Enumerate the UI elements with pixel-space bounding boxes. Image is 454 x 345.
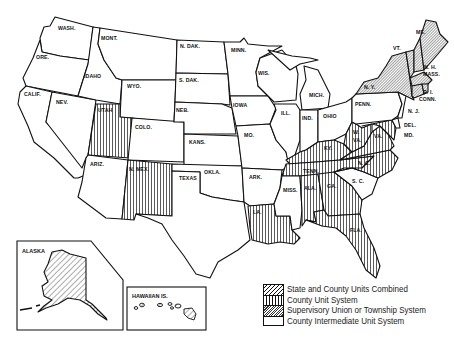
label-vt: VT.	[393, 45, 401, 51]
label-me: ME.	[416, 29, 426, 35]
legend-label: County Intermediate Unit System	[287, 316, 404, 326]
label-iowa: IOWA	[233, 102, 247, 108]
label-alaska: ALASKA	[22, 248, 45, 254]
label-wyo: WYO.	[127, 83, 142, 89]
label-nmex: N. MEX.	[129, 166, 149, 172]
state-new-york	[356, 52, 414, 100]
label-tenn: TENN.	[303, 168, 320, 174]
label-ga: GA.	[327, 183, 337, 189]
label-va: VA.	[374, 133, 383, 139]
label-okla: OKLA.	[204, 169, 221, 175]
label-ri: R. I.	[423, 89, 433, 95]
label-ind: IND.	[302, 115, 313, 121]
label-del: DEL.	[404, 122, 417, 128]
label-minn: MINN.	[231, 47, 247, 53]
label-ndak: N. DAK.	[180, 43, 200, 49]
legend-item-state-county-combined: State and County Units Combined	[263, 284, 453, 295]
label-ariz: ARIZ.	[90, 161, 105, 167]
label-sdak: S. DAK.	[179, 77, 199, 83]
label-mass: MASS.	[423, 71, 440, 77]
label-texas: TEXAS	[179, 175, 197, 181]
legend-label: Supervisory Union or Township System	[287, 305, 426, 315]
label-fla: FLA.	[350, 227, 362, 233]
label-idaho: IDAHO	[84, 73, 101, 79]
label-hawaii: HAWAIIAN IS.	[132, 293, 168, 299]
label-utah: UTAH	[98, 107, 113, 113]
label-md: MD.	[404, 132, 414, 138]
label-ohio: OHIO	[323, 113, 337, 119]
label-nc: N. C.	[358, 160, 371, 166]
state-maine	[420, 20, 448, 70]
state-iowa	[230, 96, 276, 126]
legend-item-county-intermediate: County Intermediate Unit System	[263, 316, 453, 327]
plain-swatch-icon	[263, 316, 284, 327]
label-wis: WIS.	[258, 70, 270, 76]
label-la: LA.	[253, 209, 262, 215]
label-mont: MONT.	[101, 35, 118, 41]
label-nj: N. J.	[408, 108, 420, 114]
label-mo: MO.	[244, 132, 255, 138]
legend-item-supervisory-union: Supervisory Union or Township System	[263, 305, 453, 316]
label-calif: CALIF.	[24, 91, 41, 97]
label-nh: N. H.	[424, 64, 437, 70]
label-conn: CONN.	[419, 96, 437, 102]
map-legend: State and County Units Combined County U…	[263, 284, 453, 326]
legend-label: State and County Units Combined	[287, 284, 408, 294]
label-ill: ILL.	[281, 110, 291, 116]
label-colo: COLO.	[135, 124, 152, 130]
label-kans: KANS.	[189, 139, 206, 145]
legend-label: County Unit System	[287, 295, 358, 305]
label-sc: S. C.	[352, 178, 364, 184]
label-wva-va: VA.	[353, 137, 362, 143]
label-miss: MISS.	[283, 187, 298, 193]
label-ky: KY.	[324, 145, 333, 151]
legend-item-county-unit: County Unit System	[263, 295, 453, 306]
state-florida	[306, 210, 380, 278]
vertical-lines-swatch-icon	[263, 295, 284, 306]
diagonal-hatch-swatch-icon	[263, 284, 284, 295]
label-mich: MICH.	[309, 92, 325, 98]
label-ore: ORE.	[36, 54, 50, 60]
label-ark: ARK.	[249, 174, 263, 180]
dense-hatch-swatch-icon	[263, 305, 284, 316]
label-neb: NEB.	[176, 107, 189, 113]
label-wash: WASH.	[58, 25, 76, 31]
label-ny: N. Y.	[364, 84, 376, 90]
label-penn: PENN.	[355, 101, 372, 107]
label-wva-w: W.	[353, 129, 360, 135]
label-ala: ALA.	[304, 185, 317, 191]
label-nev: NEV.	[56, 99, 68, 105]
